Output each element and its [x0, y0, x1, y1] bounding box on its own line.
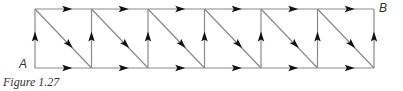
lattice-path-diagram	[0, 0, 403, 91]
label-a: A	[19, 57, 27, 71]
diagonal-edge	[318, 9, 375, 68]
figure-caption: Figure 1.27	[3, 75, 59, 90]
diagonal-edge	[205, 9, 262, 68]
diagonal-edge	[35, 9, 92, 68]
label-b: B	[379, 1, 387, 15]
diagonal-edge	[261, 9, 318, 68]
diagonal-edge	[92, 9, 149, 68]
diagonal-edge	[148, 9, 205, 68]
